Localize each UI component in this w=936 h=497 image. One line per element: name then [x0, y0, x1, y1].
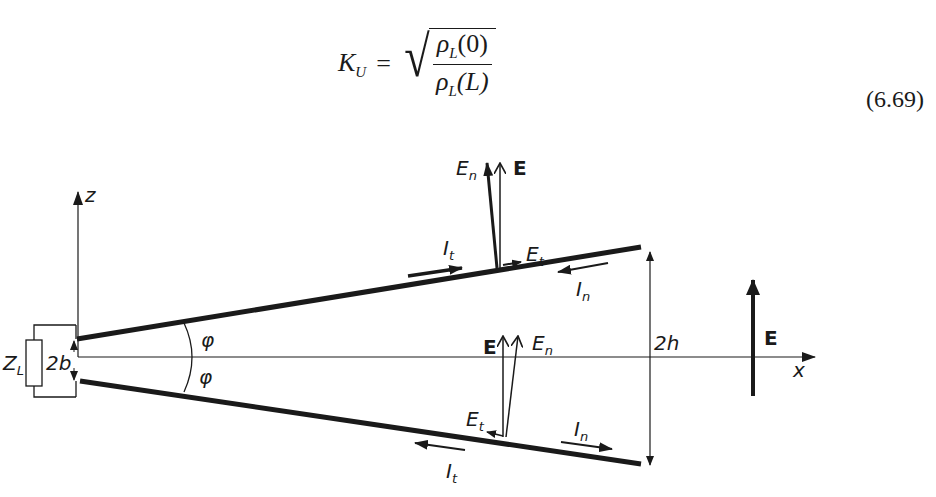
lower-Et-arrow — [487, 432, 503, 436]
lower-Et-label: Et — [466, 407, 485, 434]
lower-E-label: E — [483, 335, 497, 359]
angle-upper-label: φ — [201, 328, 214, 352]
upper-En-arrow — [487, 163, 497, 268]
load-impedance-label: ZL — [2, 351, 24, 378]
upper-plate — [77, 247, 641, 339]
upper-In-arrow — [558, 263, 608, 272]
upper-It-label: It — [443, 236, 455, 263]
upper-E-label: E — [513, 156, 527, 180]
biconical-line-diagram: x z ZL 2b φ φ 2h E En E Et It In — [0, 0, 936, 497]
load-resistor-icon — [26, 340, 42, 386]
lower-It-arrow — [415, 443, 465, 450]
lower-En-arrow — [506, 336, 518, 437]
height-label: 2h — [654, 331, 679, 355]
upper-It-arrow — [408, 268, 462, 276]
x-axis-label: x — [792, 358, 805, 382]
incident-field-label: E — [764, 326, 778, 350]
lower-En-label: En — [532, 331, 553, 358]
lower-It-label: It — [446, 459, 458, 486]
upper-En-label: En — [456, 156, 477, 183]
z-axis-label: z — [84, 183, 96, 207]
angle-lower-label: φ — [199, 365, 212, 389]
upper-In-label: In — [576, 277, 590, 304]
gap-label: 2b — [46, 351, 71, 375]
lower-plate — [80, 381, 641, 464]
upper-Et-label: Et — [526, 242, 545, 269]
lower-In-label: In — [574, 417, 588, 444]
